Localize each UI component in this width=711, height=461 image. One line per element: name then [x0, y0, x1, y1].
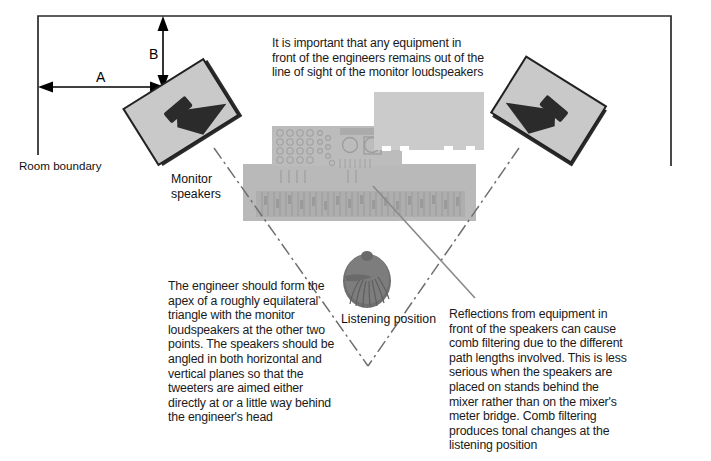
dimension-b-arrow — [158, 16, 169, 90]
console-fader-bank — [256, 191, 465, 217]
note-equipment-sightline: It is important that any equipment in fr… — [272, 36, 486, 80]
monitor-speaker-right — [490, 57, 609, 167]
label-room-boundary: Room boundary — [19, 159, 102, 172]
note-comb-filtering: Reflections from equipment in front of t… — [449, 307, 631, 453]
diagram-canvas: It is important that any equipment in fr… — [0, 0, 711, 461]
outboard-rack-unit — [374, 92, 484, 151]
note-equilateral-triangle: The engineer should form the apex of a r… — [168, 279, 342, 425]
monitor-speaker-left — [124, 58, 243, 168]
label-listening-position: Listening position — [341, 312, 436, 326]
dimension-label-a: A — [96, 69, 105, 85]
dimension-label-b: B — [149, 46, 158, 62]
engineer-head-top-view — [343, 251, 391, 308]
label-monitor-speakers: Monitor speakers — [171, 172, 261, 201]
